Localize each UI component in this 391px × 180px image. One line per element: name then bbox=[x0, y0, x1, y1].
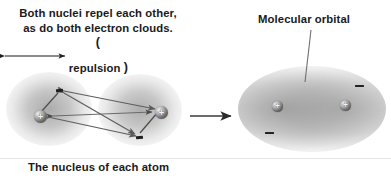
molecular-orbital-leader-line bbox=[305, 30, 311, 82]
bond-line-left-atom bbox=[41, 93, 58, 112]
molecular-orbital-diagram: + + + + Both nuclei repel each other, as… bbox=[0, 0, 391, 180]
molecular-orbital-nucleus-right: + bbox=[340, 100, 351, 111]
double-headed-arrow-icon bbox=[0, 51, 70, 61]
repulsion-caption-line-2: as do both electron clouds. bbox=[0, 21, 196, 36]
nucleus-plus-sign: + bbox=[343, 101, 348, 110]
baseline-divider bbox=[0, 158, 391, 159]
close-paren: ) bbox=[124, 60, 128, 74]
molecular-orbital-nucleus-left: + bbox=[272, 101, 283, 112]
arrow-electron-top-to-nucleus-right bbox=[64, 91, 155, 109]
repulsion-caption-line-1: Both nuclei repel each other, bbox=[0, 6, 196, 21]
nucleus-plus-sign: + bbox=[159, 108, 165, 118]
molecular-orbital-label: Molecular orbital bbox=[258, 12, 350, 27]
nucleus-caption: The nucleus of each atom bbox=[28, 160, 169, 175]
repulsion-label: repulsion bbox=[69, 62, 121, 74]
nucleus-plus-sign: + bbox=[275, 102, 280, 111]
repulsion-caption: Both nuclei repel each other, as do both… bbox=[0, 6, 196, 76]
nucleus-right-atom: + bbox=[155, 106, 168, 119]
molecular-orbital-electron-bottom-left bbox=[265, 132, 274, 134]
molecular-orbital-electron-top-right bbox=[355, 85, 364, 87]
nucleus-plus-sign: + bbox=[38, 112, 44, 122]
repulsion-legend: ( repulsion ) bbox=[0, 36, 196, 76]
nucleus-left-atom: + bbox=[34, 110, 47, 123]
repulsion-arrow-network bbox=[41, 91, 158, 136]
open-paren: ( bbox=[96, 35, 100, 49]
